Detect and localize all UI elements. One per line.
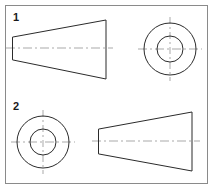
panel-2-number: 2 — [13, 100, 19, 112]
drawing-canvas: 1 2 — [0, 0, 215, 190]
panel-1-number: 1 — [13, 11, 19, 23]
drawing-sheet: 1 2 — [0, 0, 215, 190]
